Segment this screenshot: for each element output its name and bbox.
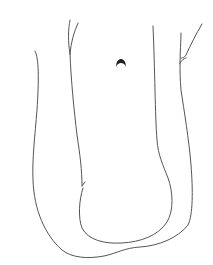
inner-outline bbox=[79, 26, 172, 243]
right-fork-notch bbox=[180, 58, 186, 63]
right-fork-branch bbox=[181, 24, 202, 58]
crescent-mark bbox=[116, 59, 126, 67]
right-fork-stem bbox=[180, 33, 181, 63]
inner-left-line bbox=[70, 54, 82, 186]
outer-outline bbox=[33, 51, 192, 258]
left-fork-right-prong bbox=[70, 23, 78, 54]
line-drawing bbox=[0, 0, 213, 265]
left-fork-left-prong bbox=[69, 20, 71, 54]
